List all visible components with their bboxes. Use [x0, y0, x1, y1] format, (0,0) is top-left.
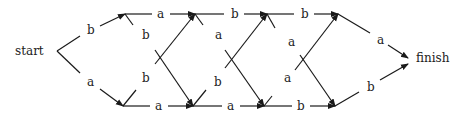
start-to-top-edge: b: [57, 14, 125, 51]
svg-text:a: a: [155, 99, 162, 113]
automaton-diagram: start b a a b b a a b: [0, 0, 465, 120]
cross-1-down-edge: b: [125, 14, 193, 106]
start-to-bottom-edge: a: [57, 51, 123, 106]
svg-text:b: b: [301, 7, 309, 21]
svg-text:b: b: [214, 75, 222, 89]
svg-text:b: b: [297, 99, 305, 113]
bottom-edge-3: b: [264, 99, 335, 113]
svg-text:a: a: [215, 28, 222, 42]
finish-label: finish: [416, 51, 450, 65]
cross-2-down-edge: a: [195, 14, 264, 106]
svg-text:a: a: [288, 35, 295, 49]
svg-text:b: b: [87, 23, 95, 37]
svg-text:a: a: [377, 33, 384, 47]
top-edge-2: b: [195, 7, 267, 21]
start-label: start: [15, 44, 44, 58]
svg-text:a: a: [157, 7, 164, 21]
svg-text:b: b: [142, 28, 150, 42]
cross-2-up-edge: b: [193, 14, 267, 106]
bottom-edge-2: a: [193, 99, 264, 113]
top-edge-1: a: [125, 7, 195, 21]
svg-text:b: b: [142, 71, 150, 85]
svg-text:a: a: [284, 71, 291, 85]
cross-3-down-edge: a: [267, 14, 335, 106]
bottom-to-finish-edge: b: [335, 64, 408, 106]
svg-text:b: b: [367, 80, 375, 94]
bottom-edge-1: a: [123, 99, 193, 113]
svg-text:a: a: [87, 75, 94, 89]
top-to-finish-edge: a: [338, 14, 408, 58]
top-edge-3: b: [267, 7, 338, 21]
svg-text:a: a: [227, 99, 234, 113]
svg-text:b: b: [231, 7, 239, 21]
